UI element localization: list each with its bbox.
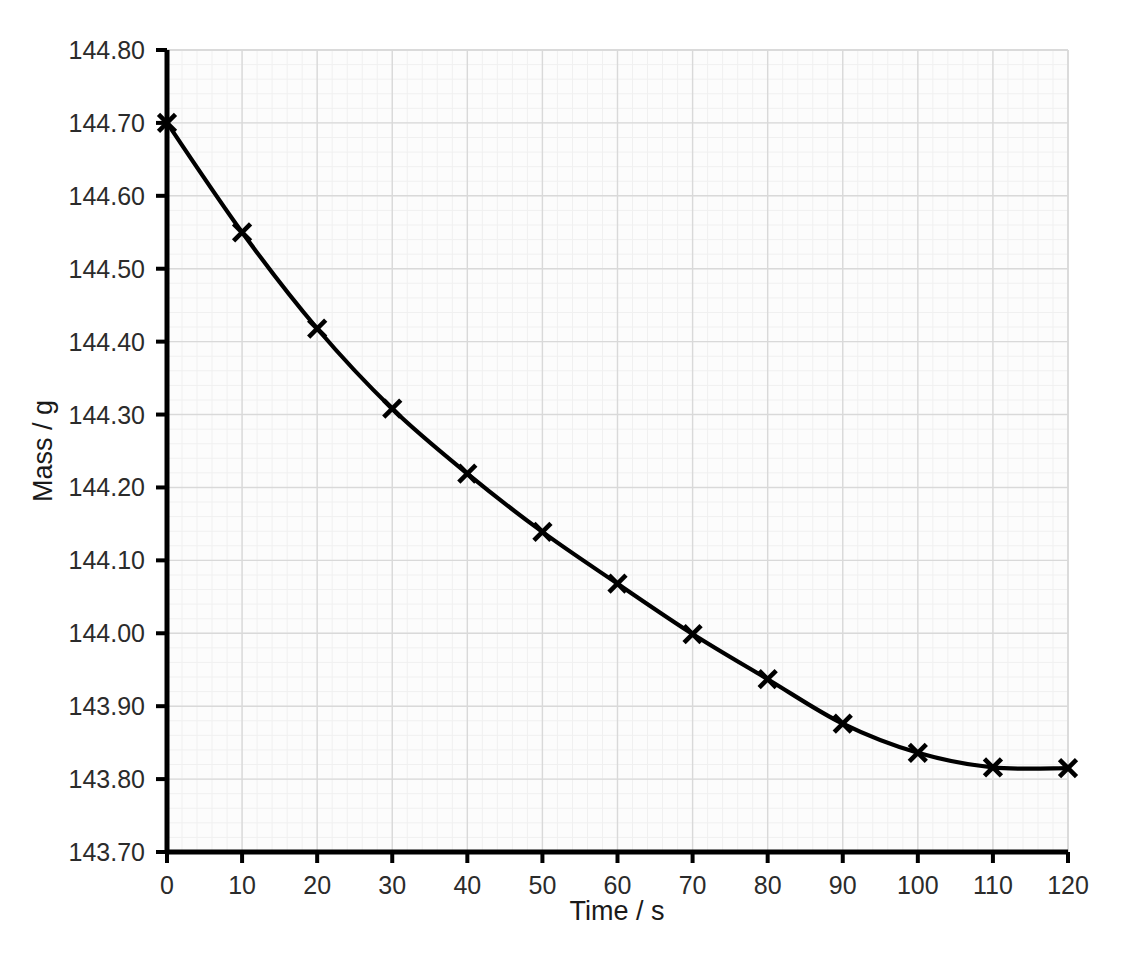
x-axis-tick-label: 40 [453,871,481,899]
y-axis-tick-label: 144.80 [69,36,145,64]
x-axis-tick-label: 20 [303,871,331,899]
y-axis-tick-label: 143.70 [69,838,145,866]
y-axis-tick-label: 144.20 [69,473,145,501]
y-axis-tick-label: 144.40 [69,328,145,356]
x-axis-title: Time / s [569,896,664,926]
y-axis-tick-label: 144.10 [69,546,145,574]
x-axis-tick-label: 100 [897,871,939,899]
x-axis-tick-label: 50 [529,871,557,899]
x-axis-tick-labels: 0102030405060708090100110120 [160,871,1089,899]
x-axis-tick-label: 120 [1047,871,1089,899]
y-axis-tick-label: 144.30 [69,401,145,429]
y-axis-tick-label: 143.80 [69,765,145,793]
x-axis-tick-label: 90 [829,871,857,899]
y-axis-title: Mass / g [28,400,58,502]
x-axis-tick-label: 80 [754,871,782,899]
x-axis-tick-label: 0 [160,871,174,899]
y-axis-tick-label: 144.00 [69,619,145,647]
mass-vs-time-chart: 143.70143.80143.90144.00144.10144.20144.… [0,0,1125,959]
x-axis-tick-label: 70 [679,871,707,899]
y-axis-tick-label: 144.70 [69,109,145,137]
y-axis-tick-label: 143.90 [69,692,145,720]
y-axis-tick-label: 144.60 [69,182,145,210]
x-axis-tick-label: 60 [604,871,632,899]
x-axis-tick-label: 30 [378,871,406,899]
x-axis-tick-label: 10 [228,871,256,899]
chart-canvas: 143.70143.80143.90144.00144.10144.20144.… [0,0,1125,959]
y-axis-tick-label: 144.50 [69,255,145,283]
x-axis-tick-label: 110 [973,871,1013,899]
y-axis-tick-labels: 143.70143.80143.90144.00144.10144.20144.… [69,36,145,866]
